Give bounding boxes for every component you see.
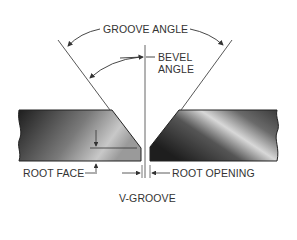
right-plate [150, 110, 278, 161]
root-face-label: ROOT FACE [23, 167, 84, 179]
left-plate [19, 110, 141, 161]
diagram-title: V-GROOVE [119, 192, 176, 204]
groove-angle-arc-left [68, 29, 100, 46]
groove-angle-arc-right [190, 29, 223, 45]
bevel-angle-label-line2: ANGLE [158, 63, 194, 75]
groove-angle-label: GROOVE ANGLE [103, 23, 188, 35]
root-opening-label: ROOT OPENING [172, 167, 255, 179]
left-bevel-extension [58, 40, 110, 110]
bevel-angle-label-line1: BEVEL [158, 51, 192, 63]
bevel-angle-arc [90, 57, 140, 78]
